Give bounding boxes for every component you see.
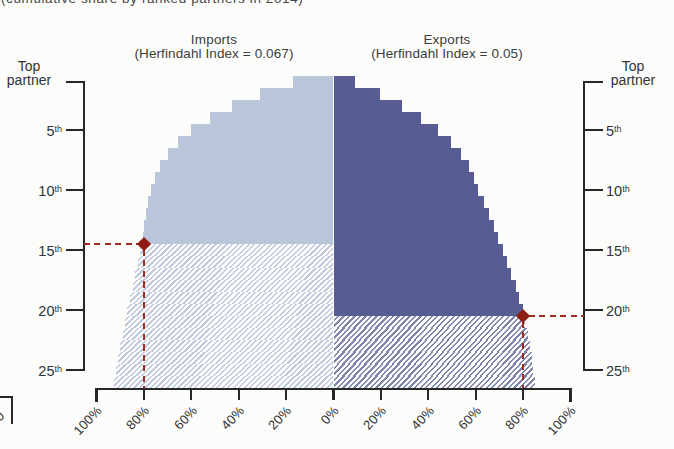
top-partner-line2: partner [602, 74, 664, 88]
imports-subtitle: (Herfindahl Index = 0.067) [94, 47, 334, 61]
top-partner-label-right: Top partner [602, 60, 664, 87]
x-tick [380, 388, 382, 400]
rank-tick-left [66, 129, 84, 131]
rank-tick-right [585, 369, 603, 371]
imports-row [160, 160, 333, 172]
exports-row [334, 292, 520, 304]
x-tick-label: 80% [503, 403, 532, 433]
x-tick [238, 388, 240, 400]
imports-row [168, 148, 334, 160]
rank-tick-label-right: 5th [606, 121, 666, 138]
exports-row [334, 112, 422, 124]
exports-row [334, 136, 451, 148]
imports-row [118, 352, 333, 364]
rank-tick-right [585, 129, 603, 131]
rank-tick-label-left: 20th [0, 301, 62, 318]
x-tick [569, 388, 571, 402]
x-tick [522, 388, 524, 400]
exports-subtitle: (Herfindahl Index = 0.05) [327, 47, 567, 61]
imports-header: Imports (Herfindahl Index = 0.067) [94, 33, 334, 61]
imports-row [138, 256, 334, 268]
exports-row [334, 124, 438, 136]
imports-row [125, 316, 334, 328]
x-tick [95, 388, 97, 402]
imports-row [210, 112, 333, 124]
x-tick-label: 40% [218, 403, 247, 433]
rank-tick-left [66, 309, 84, 311]
exports-row [334, 208, 489, 220]
rank-tick-label-right: 10th [606, 181, 666, 198]
threshold-dash-horizontal [529, 315, 584, 318]
exports-row [334, 280, 516, 292]
exports-row [334, 364, 534, 376]
imports-row [133, 280, 334, 292]
rank-tick-label-left: 10th [0, 181, 62, 198]
imports-row [123, 328, 334, 340]
rank-tick-right [585, 189, 603, 191]
exports-row [334, 244, 503, 256]
x-tick-label: 40% [408, 403, 437, 433]
x-tick-label: 100% [545, 403, 579, 438]
imports-row [151, 184, 333, 196]
imports-row [120, 340, 333, 352]
left-rank-axis-line [83, 81, 85, 371]
rank-tick-right [585, 249, 603, 251]
exports-row [334, 148, 462, 160]
x-tick [332, 388, 334, 400]
x-tick-label: 0% [318, 403, 342, 427]
imports-row [178, 136, 333, 148]
trade-concentration-chart: (cumulative share by ranked partners in … [0, 0, 674, 449]
imports-row [260, 88, 333, 100]
imports-title: Imports [94, 33, 334, 47]
exports-row [334, 352, 532, 364]
rank-tick-left [66, 81, 84, 83]
rank-tick-left [66, 189, 84, 191]
threshold-dash-vertical [522, 322, 525, 388]
imports-row [144, 220, 333, 232]
exports-row [334, 268, 512, 280]
exports-row [334, 172, 475, 184]
x-tick-label: 80% [123, 403, 152, 433]
exports-header: Exports (Herfindahl Index = 0.05) [327, 33, 567, 61]
imports-row [155, 172, 333, 184]
exports-row [334, 232, 499, 244]
imports-row [143, 232, 334, 244]
exports-row [334, 160, 470, 172]
x-tick-label: 60% [171, 403, 200, 433]
imports-row [146, 208, 334, 220]
imports-row [130, 292, 334, 304]
x-tick [190, 388, 192, 400]
rank-tick-label-right: 25th [606, 361, 666, 378]
exports-row [334, 196, 484, 208]
x-tick [475, 388, 477, 400]
top-partner-label-left: Top partner [0, 60, 60, 87]
exports-row [334, 184, 479, 196]
exports-row [334, 304, 524, 316]
x-tick-label: 20% [360, 403, 389, 433]
imports-row [232, 100, 334, 112]
imports-row [135, 268, 333, 280]
x-tick [143, 388, 145, 400]
imports-row [293, 76, 333, 88]
exports-row [334, 316, 526, 328]
exports-row [334, 76, 355, 88]
exports-row [334, 376, 535, 388]
right-rank-axis-line [583, 81, 585, 371]
exports-row [334, 256, 508, 268]
rank-tick-left [66, 249, 84, 251]
exports-row [334, 340, 530, 352]
x-tick-label: 20% [266, 403, 295, 433]
rank-tick-label-left: 25th [0, 361, 62, 378]
top-partner-line2: partner [0, 74, 60, 88]
imports-row [191, 124, 333, 136]
x-tick [427, 388, 429, 400]
exports-row [334, 88, 380, 100]
rank-tick-left [66, 369, 84, 371]
exports-row [334, 328, 528, 340]
exports-row [334, 220, 494, 232]
rank-tick-label-left: 5th [0, 121, 62, 138]
exports-title: Exports [327, 33, 567, 47]
rank-tick-label-right: 15th [606, 241, 666, 258]
x-tick-label: 60% [455, 403, 484, 433]
imports-row [127, 304, 333, 316]
